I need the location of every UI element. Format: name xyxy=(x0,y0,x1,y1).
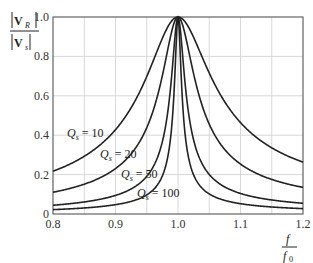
y-tick-label: 0.6 xyxy=(34,89,49,103)
svg-text:f: f xyxy=(286,232,291,246)
x-tick-label: 1.2 xyxy=(296,217,311,231)
x-tick-label: 1.0 xyxy=(171,217,186,231)
curve-label: Qs = 10 xyxy=(67,126,104,142)
curve-label: Qs = 20 xyxy=(100,147,137,163)
y-axis-ticks: 00.20.40.60.81.0 xyxy=(34,10,49,221)
curve-label: Qs = 100 xyxy=(137,186,180,202)
grid-lines xyxy=(53,17,303,214)
svg-text:V: V xyxy=(14,14,23,28)
svg-text:0: 0 xyxy=(289,255,293,263)
y-tick-label: 0.2 xyxy=(34,168,49,182)
x-axis-label: f f 0 xyxy=(282,232,297,263)
svg-text:f: f xyxy=(283,249,288,263)
resonance-chart: 0.80.91.01.11.2 00.20.40.60.81.0 Qs = 10… xyxy=(0,0,313,263)
x-axis-ticks: 0.80.91.01.11.2 xyxy=(46,217,311,231)
svg-text:V: V xyxy=(14,36,23,50)
svg-text:s: s xyxy=(25,43,28,52)
y-tick-label: 0 xyxy=(43,207,49,221)
y-tick-label: 0.8 xyxy=(34,49,49,63)
svg-text:R: R xyxy=(24,21,30,30)
curve-label: Qs = 50 xyxy=(121,167,158,183)
x-tick-label: 1.1 xyxy=(233,217,248,231)
y-tick-label: 0.4 xyxy=(34,128,49,142)
x-tick-label: 0.9 xyxy=(108,217,123,231)
